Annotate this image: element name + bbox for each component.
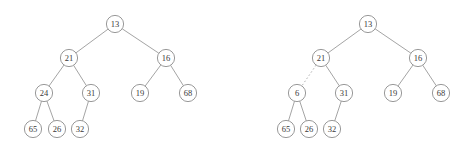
- tree-node-R-6: 6: [288, 84, 305, 101]
- node-label-L-31: 31: [87, 88, 95, 98]
- right-tree: 1321166311968652632: [277, 15, 449, 137]
- node-label-R-6: 6: [295, 88, 299, 98]
- tree-edge-L-24-to-L-26: [47, 101, 54, 121]
- tree-node-R-16: 16: [409, 49, 426, 66]
- tree-node-L-19: 19: [131, 84, 148, 101]
- node-label-L-24: 24: [40, 88, 49, 98]
- node-label-L-21: 21: [65, 53, 73, 63]
- node-label-L-68: 68: [184, 88, 192, 98]
- tree-node-L-13: 13: [106, 15, 123, 32]
- tree-node-R-65: 65: [277, 120, 294, 137]
- node-label-L-13: 13: [111, 19, 119, 29]
- tree-edge-R-31-to-R-32: [335, 101, 342, 121]
- node-label-L-32: 32: [76, 124, 84, 134]
- diagram-canvas: 132116243119686526321321166311968652632: [0, 0, 470, 151]
- node-label-R-68: 68: [437, 88, 445, 98]
- tree-edge-L-21-to-L-24: [49, 65, 64, 86]
- node-label-R-26: 26: [305, 124, 313, 134]
- node-label-R-19: 19: [389, 88, 397, 98]
- tree-diagram-figure: 132116243119686526321321166311968652632: [0, 0, 470, 151]
- tree-node-L-24: 24: [35, 84, 52, 101]
- tree-node-R-32: 32: [323, 120, 340, 137]
- tree-edge-L-24-to-L-65: [36, 101, 42, 121]
- tree-node-L-26: 26: [48, 120, 65, 137]
- node-label-R-13: 13: [364, 19, 372, 29]
- node-label-L-16: 16: [162, 53, 170, 63]
- tree-edge-L-13-to-L-21: [76, 29, 108, 53]
- tree-edge-L-21-to-L-31: [74, 65, 87, 85]
- tree-node-R-13: 13: [359, 15, 376, 32]
- right-tree-edges: [289, 29, 437, 121]
- tree-edge-R-16-to-R-19: [398, 65, 413, 86]
- tree-edge-L-31-to-L-32: [83, 101, 89, 121]
- node-label-R-21: 21: [317, 53, 325, 63]
- left-tree: 13211624311968652632: [24, 15, 196, 137]
- tree-edge-R-13-to-R-21: [328, 29, 361, 53]
- tree-edge-R-13-to-R-16: [375, 29, 411, 53]
- node-label-L-26: 26: [53, 124, 61, 134]
- tree-node-L-65: 65: [24, 120, 41, 137]
- node-label-L-19: 19: [136, 88, 144, 98]
- tree-edge-R-6-to-R-65: [289, 101, 295, 121]
- node-label-R-16: 16: [414, 53, 422, 63]
- tree-edge-R-16-to-R-68: [423, 65, 437, 86]
- tree-node-R-26: 26: [300, 120, 317, 137]
- node-label-L-65: 65: [29, 124, 37, 134]
- tree-node-L-21: 21: [60, 49, 77, 66]
- tree-edge-R-21-to-R-6: [302, 65, 316, 86]
- tree-node-R-68: 68: [432, 84, 449, 101]
- tree-node-R-21: 21: [312, 49, 329, 66]
- tree-node-L-16: 16: [157, 49, 174, 66]
- tree-node-R-19: 19: [384, 84, 401, 101]
- node-label-R-32: 32: [328, 124, 336, 134]
- node-label-R-65: 65: [282, 124, 290, 134]
- left-tree-edges: [36, 29, 184, 121]
- node-label-R-31: 31: [340, 88, 348, 98]
- tree-edge-L-16-to-L-19: [145, 65, 161, 86]
- tree-node-L-68: 68: [179, 84, 196, 101]
- tree-edge-L-16-to-L-68: [171, 65, 184, 85]
- tree-node-L-31: 31: [82, 84, 99, 101]
- tree-node-L-32: 32: [71, 120, 88, 137]
- tree-edge-R-6-to-R-26: [300, 101, 307, 121]
- tree-edge-R-21-to-R-31: [326, 65, 340, 86]
- tree-node-R-31: 31: [335, 84, 352, 101]
- tree-edge-L-13-to-L-16: [122, 29, 159, 53]
